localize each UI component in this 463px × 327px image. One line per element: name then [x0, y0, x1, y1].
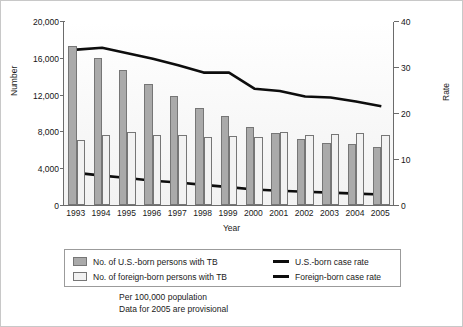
legend-item-foreign-born-bars: No. of foreign-born persons with TB	[73, 272, 273, 282]
legend-swatch-icon	[73, 272, 87, 281]
y2-axis-tick-label: 20	[401, 110, 410, 119]
legend-swatch-icon	[73, 257, 87, 266]
legend-line-icon	[273, 260, 289, 263]
y-axis-tick-label: 16,000	[33, 55, 59, 64]
bar	[246, 127, 254, 205]
bar	[119, 70, 127, 205]
x-axis-tick-label: 2004	[345, 209, 364, 218]
bar	[271, 133, 279, 205]
legend-item-foreign-born-rate: Foreign-born case rate	[273, 272, 381, 282]
chart-footnote: Per 100,000 population Data for 2005 are…	[119, 292, 228, 315]
x-axis-tick-label: 2003	[320, 209, 339, 218]
y2-axis-tick-mark	[394, 205, 399, 206]
legend-item-us-born-bars: No. of U.S.-born persons with TB	[73, 257, 273, 267]
y2-axis-title: Rate	[441, 83, 451, 101]
bar	[68, 46, 76, 205]
bar	[297, 139, 305, 205]
y-axis-tick-label: 0	[54, 202, 59, 211]
y-axis-tick-label: 4,000	[38, 165, 59, 174]
bar	[204, 137, 212, 205]
bar	[381, 135, 389, 205]
x-axis-tick-label: 2002	[295, 209, 314, 218]
y2-axis-tick-mark	[394, 159, 399, 160]
y2-axis-tick-label: 10	[401, 156, 410, 165]
y2-axis-tick-label: 30	[401, 64, 410, 73]
bar	[221, 116, 229, 205]
figure-container: Number Rate Year 04,0008,00012,00016,000…	[0, 0, 463, 327]
bar	[331, 134, 339, 205]
bar	[178, 135, 186, 205]
plot-area	[63, 22, 393, 206]
bar	[144, 84, 152, 205]
x-axis-tick-label: 1999	[219, 209, 238, 218]
bar	[195, 108, 203, 205]
bar	[94, 58, 102, 205]
bar	[305, 135, 313, 205]
bar	[254, 137, 262, 205]
x-axis-title: Year	[1, 223, 462, 233]
bar	[280, 132, 288, 205]
y2-axis-line	[393, 22, 394, 206]
legend-row: No. of U.S.-born persons with TB U.S.-bo…	[73, 254, 392, 269]
legend-item-us-born-rate: U.S.-born case rate	[273, 257, 369, 267]
bar	[229, 136, 237, 205]
bar	[102, 135, 110, 205]
bar	[348, 144, 356, 205]
x-axis-tick-label: 2005	[371, 209, 390, 218]
bar	[356, 133, 364, 205]
x-axis-tick-label: 2000	[244, 209, 263, 218]
footnote-line-2: Data for 2005 are provisional	[119, 304, 228, 316]
bar	[170, 96, 178, 205]
x-axis-tick-label: 2001	[269, 209, 288, 218]
x-axis-tick-label: 1996	[142, 209, 161, 218]
footnote-line-1: Per 100,000 population	[119, 292, 228, 304]
legend-label: U.S.-born case rate	[295, 257, 369, 267]
x-axis-tick-label: 1998	[193, 209, 212, 218]
y2-axis-tick-label: 0	[401, 202, 406, 211]
chart-legend: No. of U.S.-born persons with TB U.S.-bo…	[64, 249, 401, 287]
bar	[322, 143, 330, 205]
x-axis-tick-label: 1997	[168, 209, 187, 218]
y-axis-tick-label: 12,000	[33, 92, 59, 101]
legend-label: No. of U.S.-born persons with TB	[93, 257, 218, 267]
legend-label: No. of foreign-born persons with TB	[93, 272, 227, 282]
y2-axis-tick-mark	[394, 21, 399, 22]
y-axis-title: Number	[9, 66, 19, 96]
bar	[127, 132, 135, 205]
y2-axis-tick-mark	[394, 113, 399, 114]
bar	[373, 147, 381, 205]
y-axis-tick-label: 20,000	[33, 18, 59, 27]
x-axis-tick-label: 1994	[92, 209, 111, 218]
y2-axis-tick-mark	[394, 67, 399, 68]
legend-line-icon	[273, 275, 289, 278]
y2-axis-tick-label: 40	[401, 18, 410, 27]
y-axis-tick-label: 8,000	[38, 128, 59, 137]
legend-row: No. of foreign-born persons with TB Fore…	[73, 269, 392, 284]
x-axis-tick-label: 1993	[66, 209, 85, 218]
legend-label: Foreign-born case rate	[295, 272, 381, 282]
bar	[77, 140, 85, 205]
bar	[153, 135, 161, 205]
x-axis-tick-label: 1995	[117, 209, 136, 218]
